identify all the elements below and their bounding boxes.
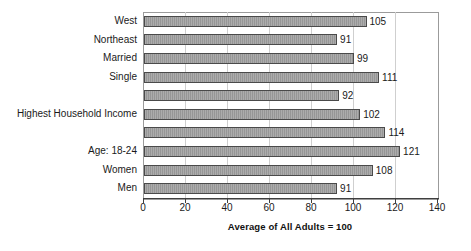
x-tick-40	[227, 198, 228, 203]
value-label: 91	[340, 183, 351, 194]
bar	[144, 183, 337, 194]
category-label	[0, 124, 137, 143]
value-label: 111	[382, 72, 397, 83]
value-label: 108	[376, 165, 393, 176]
bar	[144, 53, 354, 64]
category-label: Highest Household Income	[0, 105, 137, 124]
category-label: Single	[0, 68, 137, 87]
bar	[144, 127, 385, 138]
x-tick-80	[311, 198, 312, 203]
bar	[144, 34, 337, 45]
x-tick-label-120: 120	[378, 202, 412, 214]
x-tick-140	[437, 198, 438, 203]
x-tick-label-20: 20	[168, 202, 202, 214]
x-tick-20	[185, 198, 186, 203]
x-tick-label-80: 80	[294, 202, 328, 214]
gridline-120	[395, 12, 396, 198]
category-label: Married	[0, 49, 137, 68]
value-label: 99	[357, 53, 368, 64]
x-tick-0	[143, 198, 144, 203]
x-tick-label-0: 0	[126, 202, 160, 214]
value-label: 121	[403, 146, 420, 157]
bar	[144, 146, 400, 157]
category-label: Northeast	[0, 31, 137, 50]
category-label: West	[0, 12, 137, 31]
x-tick-120	[395, 198, 396, 203]
x-axis-caption: Average of All Adults = 100	[143, 221, 437, 232]
x-tick-60	[269, 198, 270, 203]
bar	[144, 109, 360, 120]
bar	[144, 90, 339, 101]
bar	[144, 72, 379, 83]
bar	[144, 16, 367, 27]
value-label: 92	[342, 90, 353, 101]
x-tick-100	[353, 198, 354, 203]
value-label: 114	[388, 127, 404, 138]
value-label: 105	[370, 16, 387, 27]
x-tick-label-140: 140	[420, 202, 454, 214]
x-tick-label-60: 60	[252, 202, 286, 214]
value-label: 91	[340, 34, 351, 45]
category-label: Women	[0, 161, 137, 180]
bar-chart: West105Northeast91Married99Single11192Hi…	[0, 0, 471, 251]
x-tick-label-40: 40	[210, 202, 244, 214]
category-label	[0, 86, 137, 105]
bar	[144, 165, 373, 176]
value-label: 102	[363, 109, 380, 120]
category-label: Men	[0, 179, 137, 198]
x-tick-label-100: 100	[336, 202, 370, 214]
category-label: Age: 18-24	[0, 142, 137, 161]
